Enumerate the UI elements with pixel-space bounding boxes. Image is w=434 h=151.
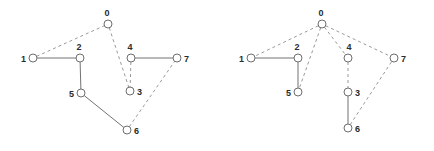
graph-node-label-right-graph-5: 5 [286,88,291,98]
graph-svg-canvas: 0123456701234567 [0,0,434,151]
graph-node-label-right-graph-3: 3 [355,88,360,98]
graph-node-label-left-graph-4: 4 [127,42,132,52]
graph-node-label-left-graph-0: 0 [104,8,109,18]
graph-edge-right-graph-0-7 [326,26,391,57]
graph-node-left-graph-4[interactable] [127,54,135,62]
graph-node-right-graph-2[interactable] [294,54,302,62]
graph-node-label-left-graph-5: 5 [69,89,74,99]
graph-edge-left-graph-1-0 [37,26,105,57]
graph-node-right-graph-5[interactable] [294,88,302,96]
graph-node-right-graph-0[interactable] [318,20,326,28]
graph-node-left-graph-3[interactable] [126,87,134,95]
graph-node-left-graph-0[interactable] [104,20,112,28]
graph-node-left-graph-2[interactable] [76,54,84,62]
graph-edge-right-graph-0-5 [299,28,320,88]
graph-node-right-graph-1[interactable] [247,54,255,62]
graph-node-label-right-graph-4: 4 [346,42,351,52]
graph-node-label-right-graph-7: 7 [401,54,406,64]
graph-node-left-graph-5[interactable] [77,89,85,97]
graph-node-label-left-graph-2: 2 [76,42,81,52]
graph-node-label-left-graph-6: 6 [134,126,139,136]
graph-node-label-left-graph-1: 1 [21,54,26,64]
graph-edge-left-graph-0-3 [109,28,129,87]
graph-node-label-left-graph-7: 7 [184,54,189,64]
graph-node-left-graph-6[interactable] [123,126,131,134]
graph-edge-right-graph-0-4 [324,27,345,55]
graph-node-right-graph-4[interactable] [344,54,352,62]
graph-figure: 0123456701234567 [0,0,434,151]
graph-node-right-graph-3[interactable] [344,88,352,96]
graph-edge-left-graph-4-3 [130,62,131,87]
graph-node-label-right-graph-2: 2 [294,42,299,52]
graph-node-label-right-graph-6: 6 [355,124,360,134]
graph-node-label-left-graph-3: 3 [137,87,142,97]
graph-node-left-graph-1[interactable] [29,54,37,62]
edges-layer [37,26,392,128]
graph-node-right-graph-7[interactable] [390,54,398,62]
graph-edge-left-graph-2-5 [80,62,81,89]
nodes-layer [29,20,398,134]
graph-node-left-graph-7[interactable] [173,54,181,62]
graph-node-right-graph-6[interactable] [344,124,352,132]
graph-edge-right-graph-0-1 [255,26,319,57]
graph-edge-left-graph-5-6 [84,96,124,128]
graph-node-label-right-graph-1: 1 [239,54,244,64]
graph-node-label-right-graph-0: 0 [318,8,323,18]
